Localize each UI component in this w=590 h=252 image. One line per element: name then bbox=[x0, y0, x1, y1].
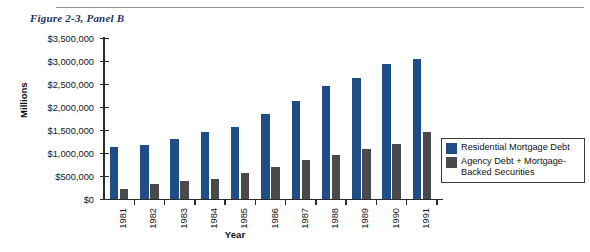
bar-agency-debt-mortgage-backed-securities-1981 bbox=[120, 189, 129, 199]
y-axis-tick: $2,000,000 bbox=[100, 107, 109, 108]
y-axis-tick: $2,500,000 bbox=[100, 84, 109, 85]
x-axis-tick bbox=[224, 199, 225, 205]
x-axis-tick bbox=[285, 199, 286, 205]
legend-item: Residential Mortgage Debt bbox=[446, 142, 580, 154]
bar-residential-mortgage-debt-1991 bbox=[413, 59, 422, 199]
top-divider-rule bbox=[56, 7, 584, 8]
x-axis-tick bbox=[345, 199, 346, 205]
bar-residential-mortgage-debt-1984 bbox=[201, 132, 210, 199]
x-axis-tick-label-1985: 1985 bbox=[239, 208, 249, 229]
y-axis-tick: $3,000,000 bbox=[100, 61, 109, 62]
x-axis-title: Year bbox=[0, 229, 470, 240]
bar-agency-debt-mortgage-backed-securities-1987 bbox=[302, 160, 311, 199]
x-axis-tick-label-1991: 1991 bbox=[421, 208, 431, 229]
y-axis-tick-label: $3,000,000 bbox=[47, 57, 94, 67]
bar-residential-mortgage-debt-1983 bbox=[170, 139, 179, 199]
x-axis-tick bbox=[164, 199, 165, 205]
bar-agency-debt-mortgage-backed-securities-1982 bbox=[150, 184, 159, 199]
bar-residential-mortgage-debt-1985 bbox=[231, 127, 240, 199]
y-axis-tick: $1,500,000 bbox=[100, 130, 109, 131]
x-axis-tick bbox=[194, 199, 195, 205]
y-axis-tick-label: $3,500,000 bbox=[47, 34, 94, 44]
bar-agency-debt-mortgage-backed-securities-1983 bbox=[180, 181, 189, 199]
bar-agency-debt-mortgage-backed-securities-1991 bbox=[423, 132, 432, 199]
bar-residential-mortgage-debt-1988 bbox=[322, 86, 331, 199]
x-axis-tick-label-1981: 1981 bbox=[118, 208, 128, 229]
y-axis-tick: $3,500,000 bbox=[100, 38, 109, 39]
bar-agency-debt-mortgage-backed-securities-1989 bbox=[362, 149, 371, 199]
x-axis-tick-label-1983: 1983 bbox=[179, 208, 189, 229]
y-axis-tick-label: $2,000,000 bbox=[47, 103, 94, 113]
bar-agency-debt-mortgage-backed-securities-1986 bbox=[271, 167, 280, 199]
figure-title: Figure 2-3, Panel B bbox=[30, 12, 124, 24]
x-axis-tick-label-1982: 1982 bbox=[148, 208, 158, 229]
legend-item: Agency Debt + Mortgage-Backed Securities bbox=[446, 156, 580, 178]
bar-residential-mortgage-debt-1982 bbox=[140, 145, 149, 199]
y-axis-tick: $0 bbox=[100, 199, 109, 200]
x-axis-tick bbox=[436, 199, 437, 205]
y-axis-tick-label: $0 bbox=[84, 195, 94, 205]
bar-agency-debt-mortgage-backed-securities-1984 bbox=[211, 179, 220, 199]
figure-panel: Figure 2-3, Panel B Millions $0$500,000$… bbox=[0, 0, 590, 252]
plot-area: $0$500,000$1,000,000$1,500,000$2,000,000… bbox=[104, 38, 437, 199]
y-axis-tick-label: $500,000 bbox=[55, 172, 94, 182]
x-axis-tick-label-1986: 1986 bbox=[270, 208, 280, 229]
chart-legend: Residential Mortgage DebtAgency Debt + M… bbox=[441, 138, 585, 183]
legend-item-label: Agency Debt + Mortgage-Backed Securities bbox=[461, 156, 580, 178]
x-axis-tick bbox=[406, 199, 407, 205]
bar-agency-debt-mortgage-backed-securities-1985 bbox=[241, 173, 250, 199]
legend-swatch-icon bbox=[446, 157, 457, 168]
bar-residential-mortgage-debt-1987 bbox=[292, 101, 301, 199]
y-axis-tick-label: $1,500,000 bbox=[47, 126, 94, 136]
y-axis-tick: $500,000 bbox=[100, 176, 109, 177]
y-axis-tick-label: $1,000,000 bbox=[47, 149, 94, 159]
bar-agency-debt-mortgage-backed-securities-1988 bbox=[332, 155, 341, 199]
bar-residential-mortgage-debt-1981 bbox=[110, 147, 119, 199]
legend-swatch-icon bbox=[446, 143, 457, 154]
bar-residential-mortgage-debt-1990 bbox=[382, 64, 391, 199]
x-axis-tick-label-1988: 1988 bbox=[330, 208, 340, 229]
y-axis-tick: $1,000,000 bbox=[100, 153, 109, 154]
y-axis-tick-label: $2,500,000 bbox=[47, 80, 94, 90]
x-axis-tick-label-1989: 1989 bbox=[360, 208, 370, 229]
x-axis-tick bbox=[315, 199, 316, 205]
bar-residential-mortgage-debt-1989 bbox=[352, 78, 361, 199]
bar-agency-debt-mortgage-backed-securities-1990 bbox=[392, 144, 401, 199]
x-axis-tick-label-1990: 1990 bbox=[391, 208, 401, 229]
legend-item-label: Residential Mortgage Debt bbox=[461, 142, 570, 153]
x-axis-tick bbox=[255, 199, 256, 205]
x-axis-tick-label-1984: 1984 bbox=[209, 208, 219, 229]
x-axis-tick-label-1987: 1987 bbox=[300, 208, 310, 229]
bar-residential-mortgage-debt-1986 bbox=[261, 114, 270, 199]
y-axis-title: Millions bbox=[18, 82, 29, 118]
x-axis-tick bbox=[134, 199, 135, 205]
x-axis-tick bbox=[376, 199, 377, 205]
